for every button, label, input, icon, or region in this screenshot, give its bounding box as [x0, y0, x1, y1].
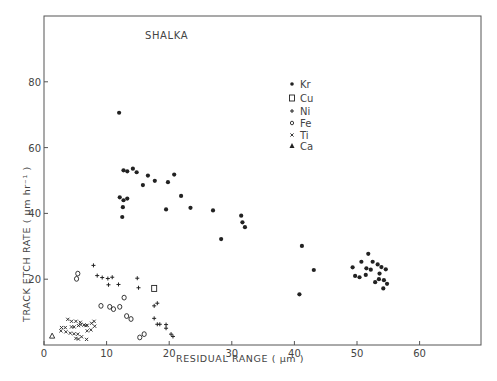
data-point-kr [146, 173, 150, 177]
data-point-kr [373, 280, 377, 284]
data-point-ni [152, 316, 156, 320]
legend-label: Cu [300, 93, 313, 104]
x-tick-label: 0 [41, 348, 47, 359]
x-tick-label: 50 [351, 348, 364, 359]
y-axis-label: TRACK ETCH RATE ( µm hr⁻¹ ) [21, 166, 32, 323]
plot-frame [44, 16, 481, 345]
data-point-kr [366, 252, 370, 256]
data-point-kr [382, 278, 386, 282]
data-point-kr [211, 208, 215, 212]
data-point-kr [381, 286, 385, 290]
data-point-kr [364, 266, 368, 270]
data-point-ni [95, 274, 99, 278]
data-point-ti [77, 337, 80, 340]
data-point-ti [85, 338, 88, 341]
data-point-kr [125, 196, 129, 200]
data-point-kr [243, 225, 247, 229]
data-point-kr [297, 292, 301, 296]
data-point-ti [59, 329, 62, 332]
data-point-kr [121, 205, 125, 209]
chart-title: SHALKA [145, 30, 188, 41]
legend-item-kr: Kr [290, 79, 311, 90]
legend-label: Fe [300, 118, 311, 129]
series-ti [59, 318, 96, 341]
data-point-kr [377, 277, 381, 281]
data-point-ti [72, 332, 75, 335]
data-point-kr [153, 179, 157, 183]
data-point-kr [312, 268, 316, 272]
series-cu [152, 285, 157, 291]
series-fe [74, 271, 146, 340]
data-point-kr [377, 272, 381, 276]
y-tick-label: 60 [28, 143, 41, 154]
series-kr [117, 111, 389, 297]
data-point-kr [300, 244, 304, 248]
data-points [50, 111, 390, 341]
legend-label: Ni [300, 106, 310, 117]
data-point-ni [164, 323, 168, 327]
scatter-chart: 0102030405060 20406080 SHALKA RESIDUAL R… [0, 0, 497, 381]
data-point-ni [91, 263, 95, 267]
data-point-ni [158, 322, 162, 326]
data-point-ni [100, 276, 104, 280]
open-square-icon [290, 95, 295, 101]
data-point-kr [121, 168, 125, 172]
data-point-fe [142, 332, 146, 337]
data-point-ni [155, 301, 159, 305]
plus-icon [290, 109, 294, 113]
data-point-kr [376, 262, 380, 266]
data-point-ti [66, 318, 69, 321]
x-axis-label: RESIDUAL RANGE ( µm ) [176, 353, 304, 364]
x-tick-label: 60 [413, 348, 426, 359]
data-point-ti [92, 320, 95, 323]
data-point-fe [76, 271, 80, 276]
triangle-icon [290, 143, 295, 148]
legend-label: Ca [300, 141, 313, 152]
data-point-kr [359, 260, 363, 264]
data-point-fe [118, 304, 122, 309]
data-point-fe [111, 307, 115, 312]
legend-label: Ti [299, 130, 309, 141]
legend: KrCuNiFeTiCa [290, 79, 314, 152]
data-point-ti [89, 328, 92, 331]
data-point-ni [152, 304, 156, 308]
y-tick-label: 80 [28, 77, 41, 88]
data-point-kr [385, 282, 389, 286]
data-point-ti [74, 320, 77, 323]
legend-item-ni: Ni [290, 106, 310, 117]
data-point-kr [239, 214, 243, 218]
series-ni [91, 263, 175, 338]
data-point-kr [164, 207, 168, 211]
data-point-ni [110, 275, 114, 279]
data-point-ni [106, 277, 110, 281]
x-tick-label: 20 [163, 348, 176, 359]
data-point-kr [135, 170, 139, 174]
data-point-kr [141, 183, 145, 187]
data-point-ca [50, 333, 55, 338]
data-point-kr [118, 195, 122, 199]
data-point-kr [364, 273, 368, 277]
data-point-ni [116, 282, 120, 286]
data-point-kr [166, 180, 170, 184]
data-point-kr [179, 194, 183, 198]
data-point-kr [117, 111, 121, 115]
data-point-kr [357, 275, 361, 279]
data-point-kr [379, 265, 383, 269]
data-point-ni [137, 286, 141, 290]
data-point-ni [164, 326, 168, 330]
data-point-cu [152, 285, 157, 291]
data-point-kr [131, 167, 135, 171]
data-point-fe [129, 317, 133, 322]
data-point-ti [69, 332, 72, 335]
legend-item-fe: Fe [290, 118, 311, 129]
data-point-fe [122, 295, 126, 300]
data-point-fe [125, 314, 129, 319]
series-ca [50, 333, 55, 338]
data-point-kr [351, 265, 355, 269]
data-point-fe [74, 276, 78, 281]
data-point-kr [121, 198, 125, 202]
data-point-ti [76, 333, 79, 336]
data-point-kr [369, 268, 373, 272]
data-point-ti [86, 329, 89, 332]
data-point-ti [93, 325, 96, 328]
